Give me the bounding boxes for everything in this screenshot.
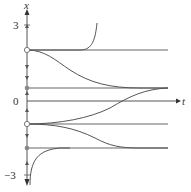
solution-curve-middle-increasing bbox=[27, 88, 168, 124]
solution-curve-blowup bbox=[27, 23, 97, 50]
tick-label-3: 3 bbox=[13, 19, 19, 31]
phase-arrow-icon bbox=[25, 134, 29, 138]
filled-dot-lower-stable bbox=[25, 146, 30, 151]
phase-arrow-icon bbox=[25, 161, 29, 165]
open-circle-lower-unstable bbox=[24, 121, 29, 126]
phase-arrow-icon bbox=[25, 108, 29, 112]
phase-diagram: x t 3 0 −3 bbox=[0, 0, 191, 192]
tick-label-minus-3: −3 bbox=[4, 169, 16, 181]
phase-arrow-icon bbox=[25, 91, 29, 95]
phase-arrow-icon bbox=[25, 65, 29, 69]
phase-arrow-icon bbox=[25, 76, 29, 80]
open-circle-upper-unstable bbox=[24, 47, 29, 52]
x-axis-down-arrow-icon bbox=[25, 179, 30, 186]
tick-label-0: 0 bbox=[13, 95, 19, 107]
t-axis-label: t bbox=[182, 95, 186, 107]
filled-dot-upper-stable bbox=[25, 86, 30, 91]
solution-curve-bottom-increasing bbox=[30, 148, 70, 185]
x-axis-label: x bbox=[23, 0, 29, 11]
solution-curve-upper-decreasing bbox=[27, 50, 168, 88]
t-axis-arrow-icon bbox=[176, 99, 181, 104]
solution-curve-lower-decreasing bbox=[27, 124, 168, 148]
